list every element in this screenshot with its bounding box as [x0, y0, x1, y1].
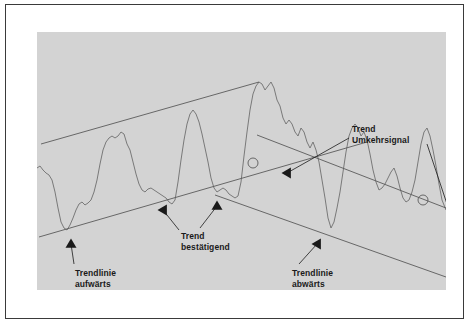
chart-panel: Trendlinie aufwärts Trend bestätigend Tr… — [37, 32, 446, 290]
arrow-head-trend-bestaetigend — [158, 205, 167, 216]
trendline-downtrend-lower-channel — [215, 195, 446, 277]
leader-line-trend-umkehrsignal-left — [287, 138, 349, 173]
label-trend-bestaetigend: Trend bestätigend — [181, 231, 230, 253]
arrow-head-trendlinie-aufwaerts — [66, 239, 77, 248]
trendline-uptrend-upper-channel — [41, 82, 259, 144]
figure-frame: Trendlinie aufwärts Trend bestätigend Tr… — [5, 4, 464, 319]
trendline-uptrend-lower-channel — [39, 142, 367, 237]
leader-line-trendlinie-abwaerts — [299, 244, 317, 264]
arrow-head-trendlinie-abwaerts — [312, 239, 321, 250]
price-curve — [37, 82, 446, 230]
trendline-figure: Trendlinie aufwärts Trend bestätigend Tr… — [0, 0, 470, 325]
label-trendlinie-aufwaerts: Trendlinie aufwärts — [75, 268, 116, 290]
arrow-head-trend-bestaetigend-second-arrow — [212, 201, 223, 210]
arrow-head-trend-umkehrsignal-left — [282, 168, 291, 179]
label-trend-umkehrsignal: Trend Umkehrsignal — [352, 124, 409, 146]
chart-canvas — [37, 32, 446, 290]
label-trendlinie-abwaerts: Trendlinie abwärts — [292, 268, 333, 290]
reversal-point-1 — [248, 158, 258, 168]
